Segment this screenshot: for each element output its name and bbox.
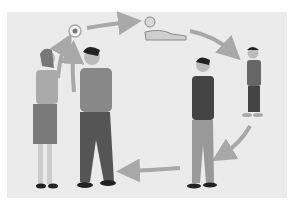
baby-figure: [145, 17, 186, 40]
adolescent-figure: [187, 57, 217, 188]
man-figure: [77, 47, 116, 188]
toddler-figure: [242, 47, 263, 117]
arrow-adolescent-to-adults: [128, 168, 180, 171]
arrow-toddler-to-adolescent: [222, 126, 250, 155]
life-cycle-diagram: [0, 0, 294, 204]
woman-figure: [33, 49, 58, 189]
egg-icon: [69, 25, 81, 37]
arrow-egg-to-baby: [87, 22, 130, 28]
arrow-baby-to-toddler: [190, 31, 232, 52]
arrow-adults-to-egg: [58, 44, 74, 92]
